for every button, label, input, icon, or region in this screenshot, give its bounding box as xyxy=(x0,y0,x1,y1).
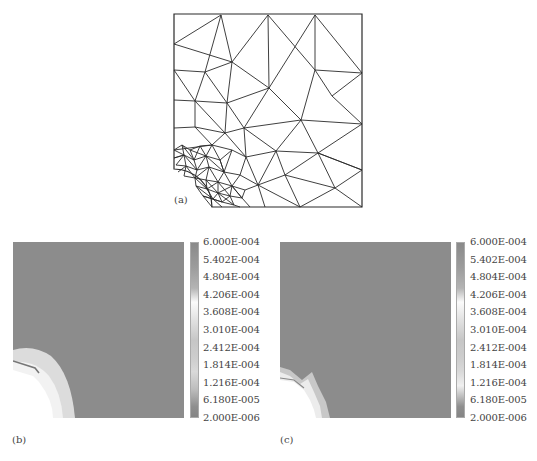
colorbar-tick: 3.010E-004 xyxy=(470,325,527,335)
colorbar-tick: 1.814E-004 xyxy=(203,360,260,370)
colorbar-tick: 4.206E-004 xyxy=(203,290,260,300)
colorbar-tick: 2.412E-004 xyxy=(470,343,527,353)
colorbar-tick: 2.000E-006 xyxy=(203,413,260,423)
colorbar-tick: 4.206E-004 xyxy=(470,290,527,300)
colorbar-b xyxy=(190,242,199,418)
colorbar-tick: 3.010E-004 xyxy=(203,325,260,335)
colorbar-tick: 3.608E-004 xyxy=(470,307,527,317)
contour-plot-b xyxy=(13,242,184,418)
colorbar-tick: 1.814E-004 xyxy=(470,360,527,370)
colorbar-tick: 2.000E-006 xyxy=(470,413,527,423)
colorbar-tick: 4.804E-004 xyxy=(203,272,260,282)
panel-label-c: (c) xyxy=(280,434,293,445)
colorbar-tick: 3.608E-004 xyxy=(203,307,260,317)
colorbar-tick: 6.000E-004 xyxy=(470,237,527,247)
panel-label-b: (b) xyxy=(12,434,26,445)
mesh-panel xyxy=(172,12,366,210)
colorbar-tick: 6.180E-005 xyxy=(470,395,527,405)
colorbar-c xyxy=(456,242,465,418)
colorbar-tick: 5.402E-004 xyxy=(470,255,527,265)
colorbar-tick: 2.412E-004 xyxy=(203,343,260,353)
colorbar-tick: 1.216E-004 xyxy=(470,378,527,388)
contour-plot-c xyxy=(280,242,451,418)
mesh-figure xyxy=(172,12,366,210)
colorbar-tick: 5.402E-004 xyxy=(203,255,260,265)
panel-label-a: (a) xyxy=(174,194,188,205)
colorbar-labels-c: 6.000E-004 5.402E-004 4.804E-004 4.206E-… xyxy=(470,237,537,427)
colorbar-labels-b: 6.000E-004 5.402E-004 4.804E-004 4.206E-… xyxy=(203,237,273,427)
colorbar-tick: 1.216E-004 xyxy=(203,378,260,388)
colorbar-tick: 6.000E-004 xyxy=(203,237,260,247)
colorbar-tick: 6.180E-005 xyxy=(203,395,260,405)
colorbar-tick: 4.804E-004 xyxy=(470,272,527,282)
